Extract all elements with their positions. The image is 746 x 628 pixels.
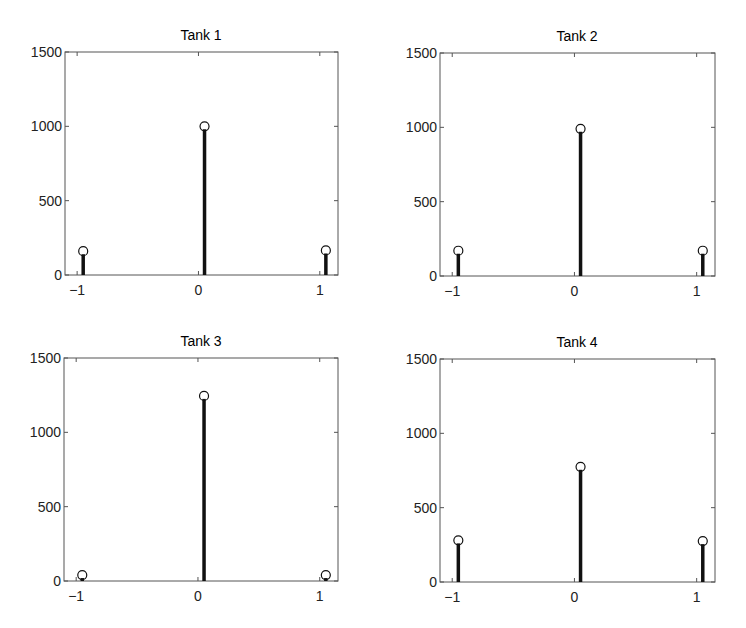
x-tick-label: 0 [571,283,579,299]
subplot-tank-3: Tank 3 050010001500−101 [30,333,338,604]
x-tick-label: −1 [444,283,460,299]
y-tick-label: 500 [414,500,438,516]
y-tick-label: 1500 [406,351,437,367]
axes-frame [440,53,715,276]
axes-frame [65,52,338,275]
subplot-title: Tank 4 [556,334,597,350]
subplot-title: Tank 3 [180,333,221,349]
subplot-title: Tank 2 [556,28,597,44]
y-tick-label: 1000 [30,424,61,440]
y-tick-label: 0 [429,574,437,590]
x-tick-label: 0 [194,588,202,604]
x-tick-label: 1 [316,588,324,604]
x-tick-label: 0 [571,589,579,605]
y-tick-label: 1500 [31,44,62,60]
x-tick-label: 1 [693,589,701,605]
y-tick-label: 1000 [406,119,437,135]
subplot-tank-4: Tank 4 050010001500−101 [406,334,715,605]
x-tick-label: 0 [195,282,203,298]
x-tick-label: −1 [69,282,85,298]
y-tick-label: 0 [54,267,62,283]
subplot-tank-2: Tank 2 050010001500−101 [406,28,715,299]
x-tick-label: −1 [68,588,84,604]
y-tick-label: 500 [38,499,62,515]
y-tick-label: 1500 [406,45,437,61]
y-tick-label: 500 [414,194,438,210]
y-tick-label: 1000 [406,425,437,441]
x-tick-label: 1 [316,282,324,298]
subplot-tank-1: Tank 1 050010001500−101 [31,27,338,298]
y-tick-label: 1000 [31,118,62,134]
y-tick-label: 1500 [30,350,61,366]
x-tick-label: −1 [444,589,460,605]
subplot-title: Tank 1 [180,27,221,43]
x-tick-label: 1 [693,283,701,299]
y-tick-label: 0 [53,573,61,589]
figure: Tank 1 050010001500−101 Tank 2 050010001… [0,0,746,628]
y-tick-label: 0 [429,268,437,284]
axes-frame [64,358,338,581]
y-tick-label: 500 [39,193,63,209]
